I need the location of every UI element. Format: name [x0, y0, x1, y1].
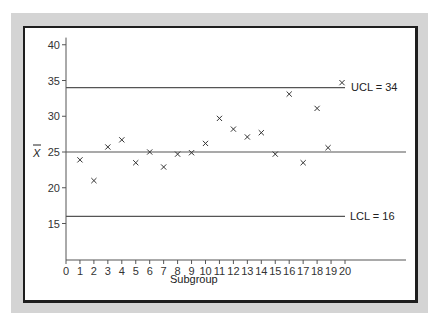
x-tick-label: 19 [325, 265, 337, 277]
data-point-marker [161, 164, 166, 169]
data-point-marker [339, 80, 344, 85]
data-point-marker [119, 137, 124, 142]
x-tick-label: 3 [105, 265, 111, 277]
reference-lines [66, 88, 406, 217]
x-tick-label: 6 [147, 265, 153, 277]
data-point-marker [245, 134, 250, 139]
x-tick-label: 14 [255, 265, 267, 277]
x-tick-label: 0 [63, 265, 69, 277]
x-tick-label: 1 [77, 265, 83, 277]
y-tick-label: 25 [48, 146, 60, 158]
data-point-marker [325, 145, 330, 150]
data-point-marker [287, 91, 292, 96]
y-tick-label: 30 [48, 110, 60, 122]
y-axis-title: X [32, 145, 41, 159]
y-tick-label: 35 [48, 75, 60, 87]
axes: 1520253035400123456789101112131415161718… [48, 38, 406, 277]
data-point-marker [203, 141, 208, 146]
x-tick-label: 17 [297, 265, 309, 277]
x-tick-label: 15 [269, 265, 281, 277]
data-point-marker [91, 178, 96, 183]
data-point-marker [217, 116, 222, 121]
x-tick-label: 18 [311, 265, 323, 277]
x-tick-label: 12 [227, 265, 239, 277]
data-point-marker [259, 130, 264, 135]
data-point-marker [301, 160, 306, 165]
x-tick-label: 13 [241, 265, 253, 277]
data-points [77, 80, 344, 183]
y-tick-label: 40 [48, 39, 60, 51]
control-chart: 1520253035400123456789101112131415161718… [0, 0, 441, 323]
data-point-marker [315, 106, 320, 111]
x-tick-label: 7 [161, 265, 167, 277]
data-point-marker [77, 157, 82, 162]
y-axis-title-text: X [32, 147, 41, 159]
x-tick-label: 2 [91, 265, 97, 277]
data-point-marker [105, 144, 110, 149]
ucl-label: UCL = 34 [351, 81, 397, 93]
x-tick-label: 16 [283, 265, 295, 277]
x-tick-label: 5 [133, 265, 139, 277]
y-tick-label: 20 [48, 182, 60, 194]
data-point-marker [231, 127, 236, 132]
x-tick-label: 4 [119, 265, 125, 277]
lcl-label: LCL = 16 [350, 210, 395, 222]
data-point-marker [189, 150, 194, 155]
data-point-marker [133, 160, 138, 165]
y-tick-label: 15 [48, 218, 60, 230]
x-tick-label: 20 [339, 265, 351, 277]
x-axis-title: Subgroup [170, 273, 218, 285]
